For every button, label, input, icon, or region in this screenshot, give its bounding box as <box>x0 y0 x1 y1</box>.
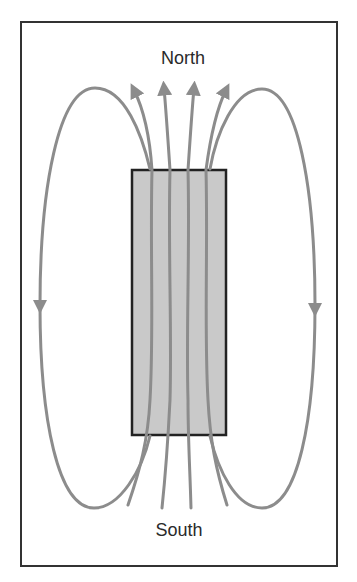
south-label: South <box>155 520 202 541</box>
north-label: North <box>161 48 205 69</box>
diagram-canvas <box>0 0 357 582</box>
bar-magnet <box>132 170 226 435</box>
magnet-diagram: North South <box>0 0 357 582</box>
